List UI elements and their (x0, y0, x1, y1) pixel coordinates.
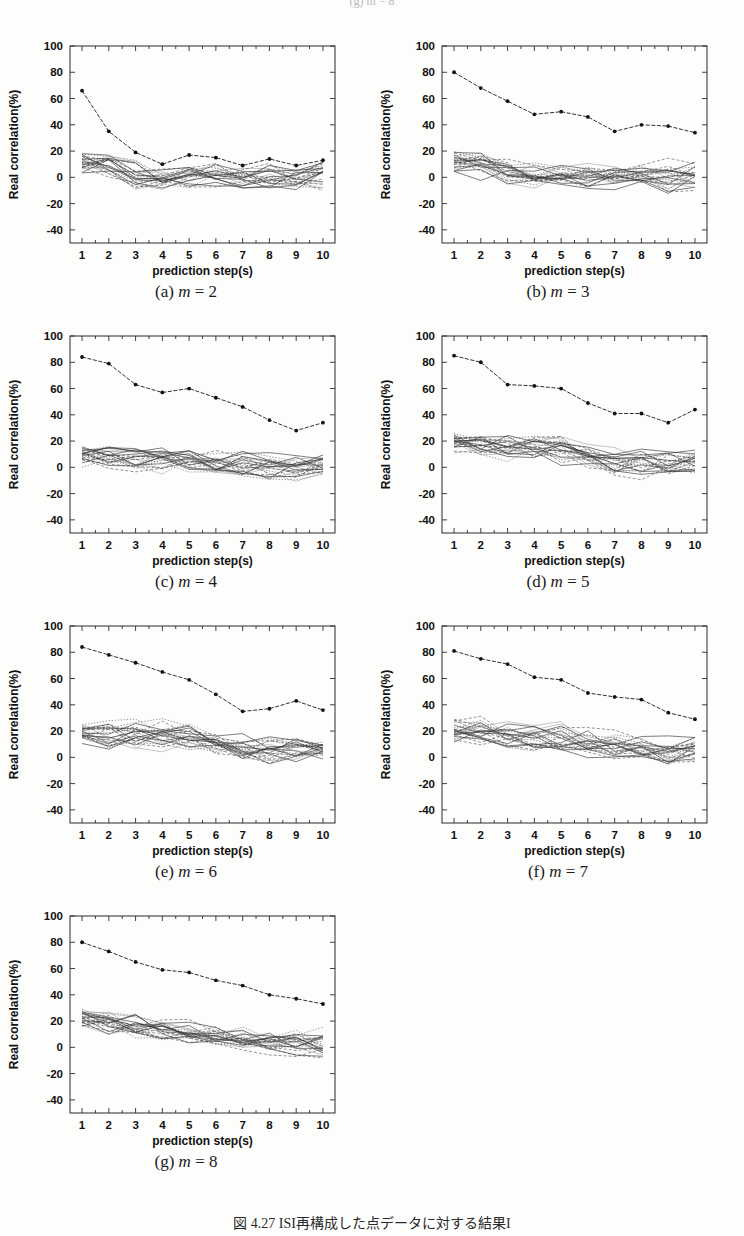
svg-text:Real correlation(%): Real correlation(%) (7, 960, 21, 1069)
svg-text:6: 6 (585, 249, 591, 261)
subplot-caption-f: (f) m = 7 (372, 862, 744, 882)
caption-prefix: (a) (155, 282, 174, 301)
subplot-caption-c: (c) m = 4 (0, 572, 372, 592)
svg-text:5: 5 (186, 1119, 193, 1131)
svg-text:0: 0 (429, 461, 435, 473)
subplot-caption-e: (e) m = 6 (0, 862, 372, 882)
plot-area-g: 12345678910100806040200-20-40prediction … (0, 900, 372, 1158)
svg-text:-20: -20 (46, 488, 63, 500)
svg-text:1: 1 (451, 249, 458, 261)
caption-prefix: (e) (155, 862, 174, 881)
data-point-marker (506, 383, 510, 387)
svg-text:40: 40 (422, 409, 435, 421)
caption-prefix: (g) (155, 1152, 175, 1171)
data-point-marker (506, 99, 510, 103)
data-point-marker (187, 678, 191, 682)
data-point-marker (268, 418, 272, 422)
data-point-marker (321, 708, 325, 712)
svg-text:0: 0 (57, 751, 63, 763)
svg-text:9: 9 (293, 829, 299, 841)
real-correlation-line (454, 356, 695, 423)
svg-text:-20: -20 (46, 198, 63, 210)
data-point-marker (187, 387, 191, 391)
surrogate-line (454, 726, 695, 757)
data-point-marker (107, 362, 111, 366)
svg-text:0: 0 (57, 171, 63, 183)
caption-variable: m (178, 282, 190, 301)
svg-text:4: 4 (531, 829, 538, 841)
surrogate-line (82, 1012, 323, 1057)
svg-text:40: 40 (422, 119, 435, 131)
data-point-marker (666, 711, 670, 715)
svg-text:prediction step(s): prediction step(s) (524, 844, 625, 858)
svg-text:8: 8 (266, 539, 273, 551)
figure-page: (g) m = 8 12345678910100806040200-20-40p… (0, 0, 744, 1236)
svg-text:Real correlation(%): Real correlation(%) (379, 670, 393, 779)
svg-text:3: 3 (132, 249, 138, 261)
svg-text:2: 2 (478, 539, 484, 551)
svg-text:20: 20 (422, 145, 435, 157)
svg-text:1: 1 (79, 829, 86, 841)
data-point-marker (613, 129, 617, 133)
svg-text:7: 7 (239, 249, 245, 261)
data-point-marker (294, 699, 298, 703)
caption-value: = 8 (195, 1152, 217, 1171)
surrogate-line (82, 731, 323, 752)
svg-text:8: 8 (266, 249, 273, 261)
plot-area-c: 12345678910100806040200-20-40prediction … (0, 320, 372, 578)
data-point-marker (613, 695, 617, 699)
data-point-marker (640, 123, 644, 127)
svg-text:-20: -20 (418, 488, 435, 500)
svg-text:2: 2 (106, 1119, 112, 1131)
svg-text:20: 20 (422, 725, 435, 737)
svg-text:100: 100 (44, 40, 63, 52)
data-point-marker (160, 162, 164, 166)
svg-text:1: 1 (79, 249, 86, 261)
clipped-page-header: (g) m = 8 (0, 0, 744, 8)
svg-text:100: 100 (416, 620, 435, 632)
svg-text:60: 60 (422, 93, 435, 105)
subplot-caption-b: (b) m = 3 (372, 282, 744, 302)
surrogate-line (82, 159, 323, 186)
svg-text:2: 2 (106, 539, 112, 551)
real-correlation-line (454, 651, 695, 719)
svg-text:2: 2 (106, 829, 112, 841)
data-point-marker (693, 408, 697, 412)
svg-text:7: 7 (611, 539, 617, 551)
svg-text:4: 4 (159, 1119, 166, 1131)
caption-variable: m (551, 572, 563, 591)
svg-text:2: 2 (478, 829, 484, 841)
data-point-marker (294, 997, 298, 1001)
plot-area-d: 12345678910100806040200-20-40prediction … (372, 320, 744, 578)
svg-text:2: 2 (478, 249, 484, 261)
data-point-marker (294, 429, 298, 433)
data-point-marker (294, 164, 298, 168)
data-point-marker (80, 645, 84, 649)
svg-text:5: 5 (186, 249, 193, 261)
data-point-marker (241, 164, 245, 168)
data-point-marker (640, 698, 644, 702)
axis-frame (70, 336, 335, 533)
caption-value: = 5 (567, 572, 589, 591)
real-correlation-line (82, 91, 323, 166)
svg-text:4: 4 (159, 829, 166, 841)
svg-text:5: 5 (186, 539, 193, 551)
svg-text:7: 7 (611, 829, 617, 841)
axis-frame (70, 916, 335, 1113)
svg-text:-40: -40 (46, 804, 63, 816)
data-point-marker (214, 978, 218, 982)
svg-text:7: 7 (239, 1119, 245, 1131)
data-point-marker (107, 129, 111, 133)
svg-text:9: 9 (665, 829, 671, 841)
data-point-marker (241, 709, 245, 713)
svg-text:Real correlation(%): Real correlation(%) (379, 90, 393, 199)
svg-text:6: 6 (213, 539, 219, 551)
data-point-marker (134, 150, 138, 154)
svg-text:8: 8 (638, 829, 645, 841)
svg-text:100: 100 (44, 910, 63, 922)
svg-text:1: 1 (79, 1119, 86, 1131)
data-point-marker (321, 1002, 325, 1006)
figure-caption: 図 4.27 ISI再構成した点データに対する結果I (0, 1212, 744, 1236)
data-point-marker (559, 678, 563, 682)
svg-text:6: 6 (213, 829, 219, 841)
